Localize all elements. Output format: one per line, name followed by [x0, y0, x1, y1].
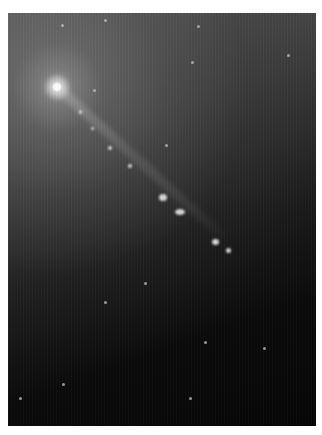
jet-knot — [226, 248, 231, 253]
jet-knot — [108, 146, 112, 150]
jet-knot — [159, 194, 167, 201]
star — [144, 282, 147, 285]
star — [204, 341, 207, 344]
jet-knot — [128, 164, 132, 168]
jet-knot — [212, 239, 219, 245]
star — [61, 24, 64, 27]
galaxy-core — [52, 82, 62, 92]
star — [263, 347, 266, 350]
jet — [54, 83, 228, 241]
star — [191, 61, 194, 64]
star — [189, 397, 192, 400]
star — [287, 54, 290, 57]
star — [197, 25, 200, 28]
star — [19, 397, 22, 400]
star — [62, 383, 65, 386]
star — [104, 301, 107, 304]
jet-knot — [91, 127, 94, 130]
star — [165, 144, 168, 147]
galaxy-photo — [8, 13, 316, 426]
star — [93, 89, 96, 92]
jet-knot — [79, 110, 82, 114]
star — [104, 19, 107, 22]
jet-knot — [175, 209, 185, 215]
